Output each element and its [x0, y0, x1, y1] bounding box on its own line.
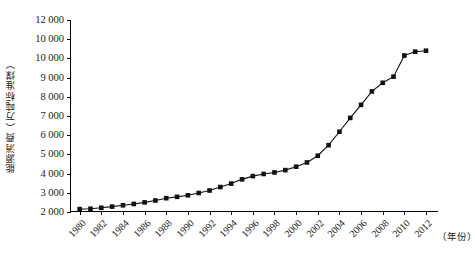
data-point-marker [370, 89, 375, 94]
y-axis-tick-label: 6 000 [40, 130, 64, 141]
data-point-marker [391, 74, 396, 79]
data-point-marker [207, 188, 212, 193]
data-point-marker [272, 170, 277, 175]
data-point-marker [413, 49, 418, 54]
x-axis-tick-label: 1998 [256, 218, 283, 245]
y-axis-tick-mark [67, 20, 71, 21]
x-axis-tick-label: 2006 [342, 218, 369, 245]
data-point-marker [424, 48, 429, 53]
data-point-marker [110, 204, 115, 209]
data-point-marker [175, 195, 180, 200]
y-axis-tick-mark [67, 58, 71, 59]
data-point-marker [305, 160, 310, 165]
x-axis-tick-labels: （年份） 19801982198419861988199019921994199… [70, 212, 464, 260]
x-axis-tick-label: 1992 [191, 218, 218, 245]
x-axis-tick-label: 1986 [126, 218, 153, 245]
data-point-marker [229, 181, 234, 186]
data-point-marker [240, 177, 245, 182]
x-axis-tick-label: 1996 [234, 218, 261, 245]
y-axis-tick-label: 5 000 [40, 149, 64, 160]
y-axis-tick-mark [67, 116, 71, 117]
y-axis-tick-mark [67, 135, 71, 136]
x-axis-tick-label: 2002 [299, 218, 326, 245]
y-axis-tick-label: 10 000 [35, 53, 64, 64]
y-axis-title: 能源消费（万吨标准煤） [2, 18, 20, 214]
series-markers [77, 48, 428, 211]
data-point-marker [142, 200, 147, 205]
y-axis-tick-label: 3 000 [40, 188, 64, 199]
y-axis-tick-label: 4 000 [40, 168, 64, 179]
y-axis-tick-mark [67, 78, 71, 79]
data-point-marker [326, 143, 331, 148]
x-axis-title: （年份） [437, 232, 475, 242]
y-axis-tick-mark [67, 39, 71, 40]
data-point-marker [164, 196, 169, 201]
data-point-marker [131, 202, 136, 207]
data-point-marker [261, 172, 266, 177]
plot-area [70, 20, 438, 212]
x-axis-tick-label: 2010 [386, 218, 413, 245]
data-point-marker [251, 174, 256, 179]
y-axis-tick-labels: 12 00010 00010 0009 0008 0007 0006 0005 … [20, 0, 68, 260]
x-axis-tick-label: 1984 [104, 218, 131, 245]
x-axis-tick-label: 2012 [407, 218, 434, 245]
data-point-marker [88, 206, 93, 211]
data-point-marker [121, 203, 126, 208]
data-point-marker [337, 129, 342, 134]
y-axis-tick-mark [67, 174, 71, 175]
data-point-marker [186, 193, 191, 198]
data-point-marker [315, 153, 320, 158]
y-axis-tick-label: 7 000 [40, 111, 64, 122]
y-axis-tick-mark [67, 154, 71, 155]
y-axis-title-text: 能源消费（万吨标准煤） [6, 59, 16, 173]
y-axis-tick-mark [67, 193, 71, 194]
x-axis-tick-label: 1990 [169, 218, 196, 245]
data-point-marker [153, 198, 158, 203]
series-line [80, 51, 426, 209]
data-point-marker [196, 191, 201, 196]
data-point-marker [402, 53, 407, 58]
y-axis-tick-label: 2 000 [40, 207, 64, 218]
energy-consumption-series [71, 20, 439, 212]
x-axis-tick-label: 1988 [147, 218, 174, 245]
data-point-marker [218, 185, 223, 190]
y-axis-tick-label: 12 000 [35, 15, 64, 26]
y-axis-tick-label: 9 000 [40, 72, 64, 83]
x-axis-tick-label: 2004 [321, 218, 348, 245]
x-axis-tick-label: 2000 [277, 218, 304, 245]
x-axis-tick-label: 2008 [364, 218, 391, 245]
y-axis-tick-label: 10 000 [35, 34, 64, 45]
data-point-marker [380, 80, 385, 85]
data-point-marker [348, 116, 353, 121]
data-point-marker [359, 103, 364, 108]
data-point-marker [283, 168, 288, 173]
data-point-marker [294, 164, 299, 169]
y-axis-tick-label: 8 000 [40, 92, 64, 103]
x-axis-tick-label: 1982 [82, 218, 109, 245]
y-axis-tick-mark [67, 97, 71, 98]
data-point-marker [99, 205, 104, 210]
x-axis-tick-label: 1994 [212, 218, 239, 245]
